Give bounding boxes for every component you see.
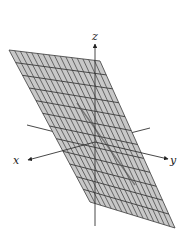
x-axis-label: x — [13, 154, 20, 167]
z-axis-label: z — [91, 30, 98, 43]
plane-surface — [9, 50, 175, 228]
y-axis-label: y — [169, 154, 177, 167]
3d-plane-figure: z x y — [0, 0, 190, 242]
plot-canvas: z x y — [0, 0, 190, 242]
